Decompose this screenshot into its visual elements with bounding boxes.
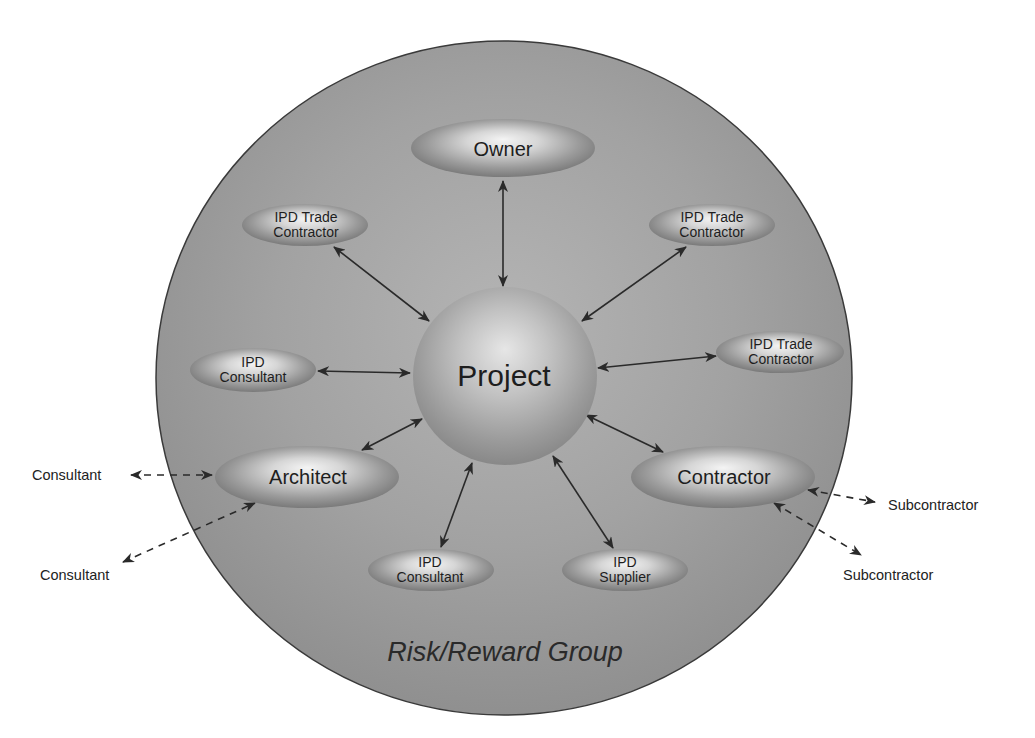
ipd-risk-reward-diagram: Owner Project Architect Contractor IPD T… — [0, 0, 1035, 738]
consultant-bottom-ellipse — [368, 549, 494, 591]
architect-ellipse — [215, 446, 399, 508]
trade-mid-right-ellipse — [716, 331, 844, 373]
supplier-bottom-ellipse — [562, 549, 688, 591]
consultant-left-ellipse — [190, 348, 316, 392]
trade-top-right-ellipse — [649, 204, 775, 246]
contractor-ellipse — [631, 446, 815, 508]
trade-top-left-ellipse — [242, 204, 368, 246]
owner-ellipse — [411, 119, 595, 177]
diagram-canvas — [0, 0, 1035, 738]
project-circle — [413, 287, 597, 465]
